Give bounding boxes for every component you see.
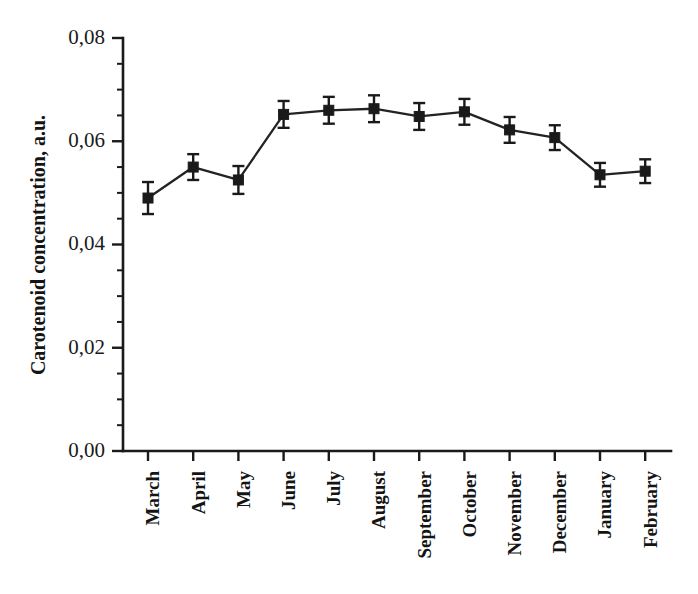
x-tick-label-august: August (368, 470, 389, 529)
x-tick-label-july: July (323, 471, 344, 506)
y-tick-label: 0,06 (68, 128, 105, 152)
data-marker-may (233, 175, 243, 185)
x-tick-label-june: June (278, 471, 299, 510)
y-axis-ticks (112, 38, 123, 451)
data-marker-march (143, 193, 153, 203)
data-marker-june (279, 109, 289, 119)
data-marker-september (414, 111, 424, 121)
x-tick-label-september: September (414, 470, 435, 558)
data-marker-october (459, 107, 469, 117)
chart-figure: 0,000,020,040,060,08 MarchAprilMayJuneJu… (0, 0, 698, 594)
x-axis-tick-labels: MarchAprilMayJuneJulyAugustSeptemberOcto… (142, 470, 660, 558)
data-marker-january (595, 170, 605, 180)
data-marker-february (640, 166, 650, 176)
carotenoid-line-chart: 0,000,020,040,060,08 MarchAprilMayJuneJu… (0, 0, 698, 594)
y-axis-tick-labels: 0,000,020,040,060,08 (68, 25, 105, 462)
data-marker-december (550, 133, 560, 143)
y-axis-title: Carotenoid concentration, a.u. (27, 115, 49, 375)
y-tick-label: 0,02 (68, 335, 105, 359)
y-tick-label: 0,00 (68, 438, 105, 462)
data-marker-august (369, 104, 379, 114)
data-marker-july (324, 105, 334, 115)
x-tick-label-december: December (549, 470, 570, 553)
x-tick-label-may: May (233, 471, 254, 508)
y-tick-label: 0,08 (68, 25, 105, 49)
axes-group (123, 38, 671, 451)
x-tick-label-april: April (188, 471, 209, 514)
x-tick-label-january: January (594, 471, 615, 539)
x-tick-label-november: November (504, 470, 525, 555)
x-axis-ticks (148, 451, 645, 461)
x-tick-label-march: March (142, 471, 163, 526)
y-tick-label: 0,04 (68, 231, 105, 255)
x-tick-label-october: October (459, 470, 480, 537)
data-marker-april (188, 162, 198, 172)
data-marker-november (505, 125, 515, 135)
x-tick-label-february: February (640, 471, 661, 549)
series-line-carotenoid (148, 109, 645, 198)
